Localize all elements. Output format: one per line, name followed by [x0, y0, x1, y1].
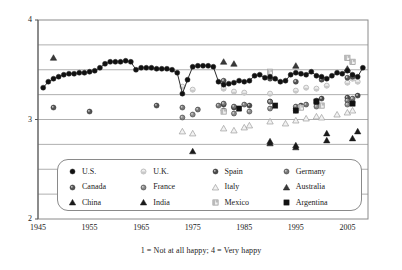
square-half-light-icon — [211, 198, 220, 207]
y-tick-label: 2 — [16, 214, 32, 223]
legend-item-spain: Spain — [211, 167, 282, 176]
legend-label: France — [153, 183, 175, 191]
legend-item-uk: U.K. — [139, 167, 210, 176]
circle-filled-gray-icon — [139, 183, 148, 192]
y-tick-label: 3 — [16, 115, 32, 124]
triangle-filled-black-icon — [68, 198, 77, 207]
chart-caption: 1 = Not at all happy; 4 = Very happy — [0, 246, 402, 255]
series-france — [180, 100, 355, 120]
y-tick-label: 4 — [16, 15, 32, 24]
legend-item-italy: Italy — [211, 183, 282, 192]
legend-item-germany: Germany — [282, 167, 353, 176]
circle-filled-dark-icon — [68, 183, 77, 192]
series-canada — [51, 74, 355, 114]
legend-item-mexico: Mexico — [211, 198, 282, 207]
series-china — [267, 128, 361, 148]
circle-filled-gray-icon — [282, 167, 291, 176]
legend-item-canada: Canada — [68, 183, 139, 192]
series-italy — [179, 107, 356, 135]
circle-filled-black-icon — [68, 167, 77, 176]
circle-crescent-light-icon — [139, 167, 148, 176]
x-tick-label: 1975 — [178, 223, 208, 232]
legend-label: China — [82, 199, 101, 207]
legend-label: Canada — [82, 183, 106, 191]
triangle-filled-black-icon — [139, 198, 148, 207]
triangle-filled-dark-icon — [282, 183, 291, 192]
legend-item-france: France — [139, 183, 210, 192]
series-germany — [180, 96, 355, 112]
legend-label: Italy — [225, 183, 240, 191]
legend-label: U.K. — [153, 168, 169, 176]
x-tick-label: 2005 — [332, 223, 362, 232]
legend-label: Germany — [296, 168, 326, 176]
chart-legend: U.S.U.K.SpainGermanyCanadaFranceItalyAus… — [57, 159, 362, 211]
x-tick-label: 1965 — [126, 223, 156, 232]
legend-label: Spain — [225, 168, 243, 176]
x-tick-label: 1945 — [23, 223, 53, 232]
x-tick-label: 1995 — [281, 223, 311, 232]
legend-item-china: China — [68, 198, 139, 207]
legend-label: Australia — [296, 183, 325, 191]
legend-label: Argentina — [296, 199, 328, 207]
legend-label: India — [153, 199, 169, 207]
circle-filled-dark-icon — [211, 167, 220, 176]
series-mexico — [221, 55, 355, 114]
legend-grid: U.S.U.K.SpainGermanyCanadaFranceItalyAus… — [68, 164, 353, 211]
x-tick-label: 1985 — [229, 223, 259, 232]
legend-item-us: U.S. — [68, 167, 139, 176]
triangle-open-light-icon — [211, 183, 220, 192]
legend-item-india: India — [139, 198, 210, 207]
square-filled-black-icon — [282, 198, 291, 207]
legend-item-australia: Australia — [282, 183, 353, 192]
legend-label: U.S. — [82, 168, 96, 176]
legend-item-argentina: Argentina — [282, 198, 353, 207]
x-tick-label: 1955 — [75, 223, 105, 232]
legend-label: Mexico — [225, 199, 249, 207]
happiness-scatter-figure: 234 1945195519651975198519952005 U.S.U.K… — [0, 0, 402, 270]
series-spain — [221, 93, 360, 111]
